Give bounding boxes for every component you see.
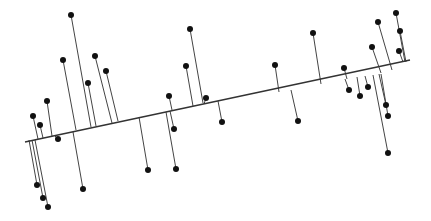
residual-segment	[378, 22, 392, 70]
data-point	[55, 136, 61, 142]
data-point	[183, 63, 189, 69]
data-points	[30, 10, 403, 210]
residual-segment	[47, 101, 52, 136]
data-point	[393, 10, 399, 16]
data-point	[295, 118, 301, 124]
data-point	[341, 65, 347, 71]
data-point	[45, 204, 51, 210]
data-point	[383, 102, 389, 108]
regression-line	[25, 60, 410, 142]
residual-segment	[95, 56, 112, 123]
data-point	[357, 93, 363, 99]
residual-segment	[33, 116, 38, 139]
residual-segment	[372, 47, 381, 73]
data-point	[173, 166, 179, 172]
data-point	[103, 68, 109, 74]
data-point	[34, 182, 40, 188]
residual-segment	[73, 132, 83, 189]
residual-segment	[186, 66, 193, 106]
data-point	[30, 113, 36, 119]
residual-segments	[29, 13, 406, 207]
data-point	[375, 19, 381, 25]
data-point	[203, 95, 209, 101]
data-point	[145, 167, 151, 173]
data-point	[92, 53, 98, 59]
residual-segment	[373, 75, 388, 153]
residual-segment	[313, 33, 321, 84]
data-point	[397, 28, 403, 34]
residual-segment	[218, 101, 222, 122]
residual-scatter-chart	[0, 0, 431, 221]
residual-segment	[381, 74, 388, 116]
residual-segment	[291, 90, 298, 121]
residual-segment	[166, 112, 176, 169]
data-point	[365, 84, 371, 90]
data-point	[44, 98, 50, 104]
data-point	[396, 48, 402, 54]
data-point	[310, 30, 316, 36]
data-point	[346, 87, 352, 93]
data-point	[85, 80, 91, 86]
data-point	[219, 119, 225, 125]
residual-segment	[190, 29, 203, 103]
data-point	[166, 93, 172, 99]
data-point	[40, 195, 46, 201]
data-point	[171, 126, 177, 132]
data-point	[385, 113, 391, 119]
residual-segment	[63, 60, 76, 130]
data-point	[385, 150, 391, 156]
residual-segment	[139, 117, 148, 170]
residual-segment	[71, 15, 91, 127]
data-point	[60, 57, 66, 63]
data-point	[68, 12, 74, 18]
data-point	[187, 26, 193, 32]
data-point	[80, 186, 86, 192]
data-point	[37, 122, 43, 128]
data-point	[369, 44, 375, 50]
residual-segment	[106, 71, 118, 121]
data-point	[272, 62, 278, 68]
